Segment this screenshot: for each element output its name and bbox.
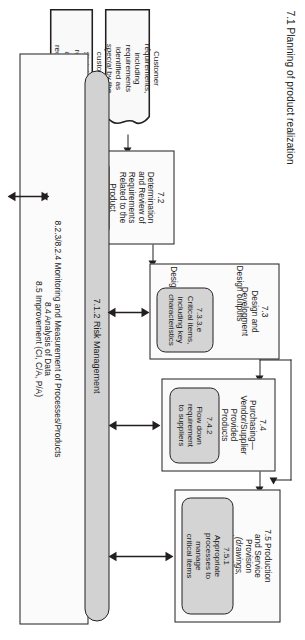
- box-73-line2: Design and: [249, 286, 259, 335]
- arrowhead-73-bypass-to-75: [269, 477, 277, 484]
- box-75-inner-text: 7.5.1 Appropriate processes to manage cr…: [184, 533, 231, 579]
- connector-73-bypass-vertical: [259, 359, 291, 360]
- box-72-title: 7.2 Determination and Review of Requirem…: [106, 171, 164, 224]
- box-73-inner-line2: including key: [175, 294, 184, 346]
- box-72-line3: and Review of: [135, 171, 145, 224]
- box-75-inner-line2: processes to: [202, 533, 211, 579]
- connector-72-to-73: [152, 244, 153, 261]
- doc0-line4: requirements: [122, 43, 132, 93]
- doc0-line5: identified as: [113, 43, 123, 93]
- connector-doc0-to-72: [127, 134, 128, 148]
- double-arrow-74-risk: [108, 415, 160, 435]
- diagram-title: 7.1 Planning of product realization: [283, 10, 295, 164]
- connector-73-to-74: [259, 359, 260, 376]
- box-74-inner-id: 7.4.2: [203, 403, 212, 446]
- box-measurement-monitoring: 8.2.3/8.2.4 Monitoring and Measurement o…: [19, 53, 88, 624]
- box-74-line1: 7.4: [256, 395, 266, 454]
- doc0-line2: requirements,: [141, 43, 151, 93]
- box-73-inner-id: 7.3.3.e: [194, 294, 203, 346]
- double-arrow-75-risk: [108, 546, 173, 566]
- box-73-inner-text: 7.3.3.e Critical items, including key ch…: [166, 294, 204, 346]
- box-measurement-text: 8.2.3/8.2.4 Monitoring and Measurement o…: [32, 220, 61, 457]
- box-75-inner-line3: manage: [193, 533, 202, 579]
- box-74-line3: Vendor/Supplier: [237, 395, 247, 454]
- doc0-line3: including: [132, 43, 142, 93]
- doc0-line1: Customer: [151, 43, 161, 93]
- box-74-inner-line2: requirement: [185, 403, 194, 446]
- document-customer-requirements-text: Customer requirements, including require…: [104, 8, 150, 134]
- box-75-line1: 7.5 Production: [261, 529, 271, 583]
- double-arrow-73-risk: [107, 302, 149, 322]
- diagram-viewport: 7.1 Planning of product realization Cust…: [0, 0, 305, 640]
- box-74-inner-text: 7.4.2 Flow down requirement to suppliers: [175, 403, 213, 446]
- box-72-line1: 7.2: [154, 171, 164, 224]
- design-outputs-text: Design outputs: [233, 265, 243, 321]
- connector-74-to-75: [259, 471, 260, 487]
- box-73-inner-line1: Critical items,: [185, 294, 194, 346]
- bar-risk-management: 7.1.2 Risk Management: [84, 70, 109, 621]
- box-74-inner-flow-down: 7.4.2 Flow down requirement to suppliers: [169, 387, 219, 463]
- box-75-line3: Provision: [242, 529, 252, 583]
- box-73-line1: 7.3: [258, 286, 268, 335]
- label-design-outputs: Design outputs: [233, 265, 243, 321]
- connector-73-bypass-horizontal: [290, 359, 291, 480]
- box-73-inner-critical-items: 7.3.3.e Critical items, including key ch…: [156, 287, 213, 352]
- box-75-inner-appropriate-processes: 7.5.1 Appropriate processes to manage cr…: [181, 497, 233, 614]
- bar-risk-management-label: 7.1.2 Risk Management: [92, 298, 102, 393]
- double-arrow-72-risk: [7, 186, 49, 206]
- box-74-title: 7.4 Purchasing— Vendor/Supplier Provided…: [218, 395, 266, 454]
- box-75-inner-line4: critical items: [184, 533, 193, 579]
- box-73-inner-line3: characteristics: [166, 294, 175, 346]
- measurement-line3: 8.5 Improvement (CI, C/A, P/A): [32, 220, 42, 457]
- box-75-inner-line1: Appropriate: [212, 533, 221, 579]
- document-customer-requirements: Customer requirements, including require…: [104, 8, 150, 134]
- measurement-line1: 8.2.3/8.2.4 Monitoring and Measurement o…: [51, 220, 61, 457]
- box-74-inner-line3: to suppliers: [175, 403, 184, 446]
- diagram-canvas: 7.1 Planning of product realization Cust…: [0, 0, 305, 640]
- doc0-line6-italic: special: [104, 43, 113, 68]
- box-75-inner-id: 7.5.1: [221, 533, 230, 579]
- box-74-inner-line1: Flow down: [194, 403, 203, 446]
